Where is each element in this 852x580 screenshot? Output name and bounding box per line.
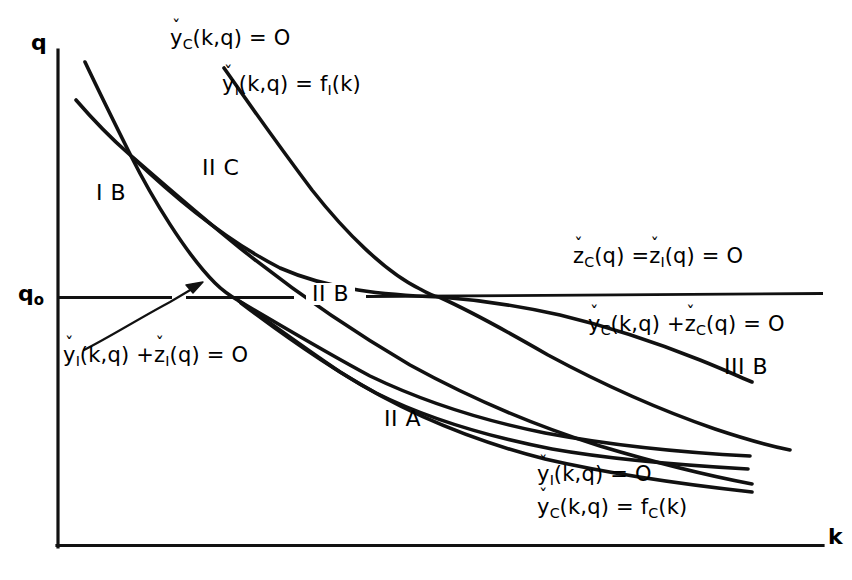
pointer-arrow: [84, 282, 203, 350]
q-sub-zero-tick-label: qo: [18, 283, 44, 308]
diagram-canvas: [0, 0, 852, 580]
phase-diagram-figure: q k qo ˇyC(k,q) = O ˇyI(k,q) = fI(k) ˇzC…: [0, 0, 852, 580]
equation-yC-equals-zero: ˇyC(k,q) = O: [170, 28, 290, 52]
equation-yI-plus-zI-equals-zero: ˇyI(k,q) +ˇzI(q) = O: [63, 345, 248, 369]
y-axis-label: q: [31, 32, 47, 54]
x-axis-label: k: [828, 526, 843, 548]
region-label-IIB: II B: [306, 283, 355, 305]
z-label-underline: [540, 287, 790, 288]
pointer-arrow-shaft: [84, 284, 200, 350]
equation-yI-equals-fI: ˇyI(k,q) = fI(k): [222, 74, 361, 98]
equation-yI-equals-zero: ˇyI(k,q) = O: [537, 464, 652, 488]
equation-zC-equals-zI-equals-zero: ˇzC(q) =ˇzI(q) = O: [573, 246, 743, 270]
region-label-IIA: II A: [384, 408, 421, 430]
equation-yC-plus-zC-equals-zero: ˇyC(k,q) +ˇzC(q) = O: [588, 314, 785, 338]
equation-yC-equals-fC: ˇyC(k,q) = fC(k): [537, 497, 687, 521]
region-label-IIC: II C: [202, 157, 239, 179]
region-label-IB: I B: [96, 182, 126, 204]
region-label-IIIB: III B: [724, 356, 768, 378]
